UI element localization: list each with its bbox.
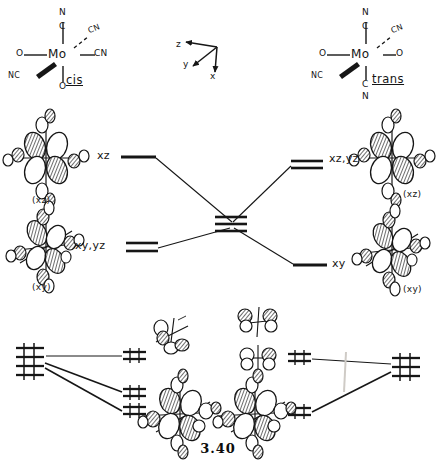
level-lc-top <box>123 348 146 363</box>
level-center-triple <box>215 217 247 231</box>
level-lc-mid <box>123 385 146 400</box>
trans-atom-cyanide-top-n: N <box>362 8 369 17</box>
orbital-caption-cis-xz: (xz) <box>32 196 50 205</box>
axis-label-x: x <box>210 72 216 81</box>
trans-atom-cyanide-bottom-n: N <box>362 92 369 101</box>
level-cis-xy-yz <box>126 243 158 251</box>
trans-atom-cyanide-top-c: C <box>362 22 369 31</box>
cis-atom-cyanide-lower-left: NC <box>8 72 20 80</box>
cis-orbital-xy-picture <box>6 201 84 293</box>
figure-caption: 3.40 <box>0 441 436 456</box>
lower-orbital-small-b <box>238 307 277 337</box>
cis-atom-cyanide-top-n: N <box>59 8 66 17</box>
cis-orbital-xz-picture <box>3 109 89 207</box>
cis-atom-cyanide-right: CN <box>94 49 108 58</box>
level-label-cis-xy-yz: xy,yz <box>75 240 105 251</box>
axis-label-z: z <box>176 40 181 49</box>
corr-line-xyyz-to-center <box>158 228 230 248</box>
corr-line-xz-to-center <box>156 158 232 222</box>
level-label-trans-xz-yz: xz,yz <box>329 153 359 164</box>
orbital-caption-cis-xy: (xy) <box>32 283 51 292</box>
trans-atom-cyanide-bottom-c: C <box>362 80 369 89</box>
trans-orbital-xy-picture <box>352 204 430 296</box>
figure-canvas: O N C Mo CN CN NC O cis O N C Mo CN O NC… <box>0 0 436 465</box>
orbital-caption-trans-xy: (xy) <box>403 285 422 294</box>
level-trans-xz-yz <box>291 161 323 168</box>
level-label-cis-xz: xz <box>97 150 110 161</box>
level-label-trans-xy: xy <box>332 258 346 269</box>
cis-atom-metal: Mo <box>48 48 66 60</box>
level-block-cis <box>16 343 44 380</box>
axis-label-y: y <box>183 60 189 69</box>
level-block-trans <box>392 353 420 381</box>
level-rc-top <box>288 350 311 365</box>
trans-orbital-xz-picture <box>349 109 435 207</box>
orbital-caption-trans-xz: (xz) <box>403 190 421 199</box>
corr-low-4 <box>312 359 391 364</box>
corr-line-center-to-xy <box>234 228 293 264</box>
cis-isomer-label: cis <box>66 75 83 87</box>
lower-orbital-small-c <box>240 345 276 371</box>
trans-atom-cyanide-lower-left: NC <box>311 72 323 80</box>
corr-low-5 <box>312 372 391 412</box>
trans-atom-oxo-right: O <box>396 49 403 58</box>
trans-isomer-label: trans <box>372 74 404 86</box>
corr-low-3 <box>45 368 122 411</box>
trans-atom-metal: Mo <box>351 48 369 60</box>
trans-atom-oxo-left: O <box>319 49 326 58</box>
axis-key <box>186 42 217 72</box>
cis-atom-oxo-left: O <box>16 49 23 58</box>
corr-line-center-to-xzyz <box>233 166 291 222</box>
smudge-artifact <box>344 352 346 392</box>
lower-orbital-small-a <box>154 316 189 354</box>
figure-svg <box>0 0 436 465</box>
correlation-diagram <box>121 157 327 265</box>
corr-low-2 <box>45 363 122 392</box>
cis-atom-cyanide-top-c: C <box>59 22 66 31</box>
